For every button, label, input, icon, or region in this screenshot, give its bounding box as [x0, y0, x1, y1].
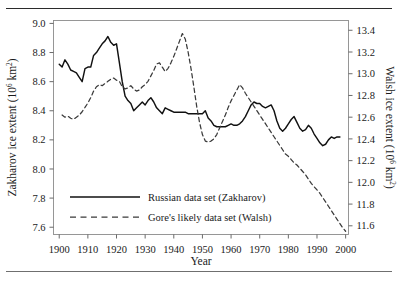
- x-tick-label: 2000: [335, 244, 356, 255]
- axis-titles-layer: Zakharov ice extent (106 km2)Walsh ice e…: [6, 58, 396, 267]
- y-axis-right-ticks: 11.611.812.012.212.412.612.813.013.213.4: [349, 25, 376, 232]
- y-axis-left-ticks: 7.67.88.08.28.48.68.89.0: [32, 18, 53, 233]
- x-tick-label: 1910: [77, 244, 98, 255]
- y-left-tick-label: 7.6: [32, 222, 45, 233]
- y-right-tick-label: 12.0: [357, 177, 375, 188]
- x-tick-label: 1920: [106, 244, 127, 255]
- y-left-tick-label: 9.0: [32, 18, 45, 29]
- x-tick-label: 1930: [135, 244, 156, 255]
- y-left-tick-label: 8.0: [32, 164, 45, 175]
- x-axis-ticks: 1900191019201930194019501960197019801990…: [49, 235, 356, 255]
- y-left-tick-label: 8.4: [32, 105, 46, 116]
- y-right-tick-label: 12.6: [357, 112, 375, 123]
- x-tick-label: 1960: [221, 244, 242, 255]
- y-right-tick-label: 12.8: [357, 90, 375, 101]
- y-right-tick-label: 12.4: [357, 134, 376, 145]
- legend-label-zakharov: Russian data set (Zakharov): [148, 192, 266, 204]
- x-tick-label: 1940: [163, 244, 184, 255]
- y-right-tick-label: 13.4: [357, 25, 376, 36]
- figure-container: 1900191019201930194019501960197019801990…: [0, 0, 398, 281]
- y-left-tick-label: 8.6: [32, 76, 45, 87]
- x-tick-label: 1990: [306, 244, 327, 255]
- x-tick-label: 1950: [192, 244, 213, 255]
- y-axis-left-title: Zakharov ice extent (106 km2): [6, 58, 19, 196]
- legend-label-walsh: Gore's likely data set (Walsh): [148, 212, 272, 224]
- x-tick-label: 1900: [49, 244, 70, 255]
- y-axis-right-title: Walsh ice extent (106 km2): [383, 66, 396, 189]
- series-line-zakharov: [59, 37, 340, 146]
- x-tick-label: 1980: [278, 244, 299, 255]
- y-right-tick-label: 11.8: [357, 199, 375, 210]
- y-left-tick-label: 8.2: [32, 134, 45, 145]
- y-right-tick-label: 13.0: [357, 68, 375, 79]
- y-right-tick-label: 11.6: [357, 220, 375, 231]
- y-right-tick-label: 12.2: [357, 155, 375, 166]
- y-right-tick-label: 13.2: [357, 47, 375, 58]
- y-left-tick-label: 8.8: [32, 47, 45, 58]
- ice-extent-line-chart: 1900191019201930194019501960197019801990…: [0, 0, 398, 281]
- chart-legend: Russian data set (Zakharov)Gore's likely…: [70, 192, 272, 224]
- x-axis-title: Year: [190, 255, 211, 267]
- x-tick-label: 1970: [249, 244, 270, 255]
- y-left-tick-label: 7.8: [32, 193, 45, 204]
